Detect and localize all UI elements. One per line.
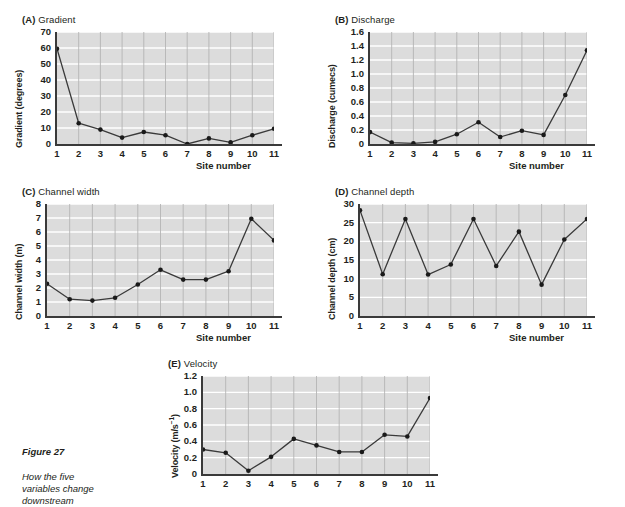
x-tick-label: 5 (134, 149, 154, 159)
x-tick-label: 8 (509, 321, 529, 331)
x-tick-label: 9 (532, 321, 552, 331)
x-tick-label: 6 (469, 149, 489, 159)
data-point (67, 297, 72, 302)
x-axis-line (45, 316, 282, 318)
y-axis-line (358, 204, 360, 317)
y-tick-label: 6 (36, 227, 41, 237)
y-tick-label: 0 (359, 139, 364, 149)
panel-title-velocity: (E) Velocity (168, 358, 217, 369)
x-axis-line (358, 316, 595, 318)
y-axis-ticks: 010203040506070 (21, 32, 51, 144)
x-axis-line (201, 474, 438, 476)
y-tick-label: 10 (40, 123, 51, 133)
x-tick-label: 4 (418, 321, 438, 331)
data-point (292, 437, 297, 442)
y-tick-label: 0 (192, 469, 197, 479)
x-tick-label: 3 (238, 479, 258, 489)
y-tick-label: 20 (40, 107, 51, 117)
x-tick-label: 4 (112, 149, 132, 159)
y-axis-ticks: 00.20.40.60.81.01.21.41.6 (334, 32, 364, 144)
x-tick-label: 4 (261, 479, 281, 489)
data-point (476, 120, 481, 125)
plot-area-channel-depth (360, 204, 587, 316)
x-tick-label: 1 (37, 321, 57, 331)
y-tick-label: 0.2 (184, 453, 197, 463)
y-tick-label: 0.4 (351, 111, 364, 121)
figure-caption: Figure 27 How the five variables change … (22, 434, 147, 507)
plot-svg (47, 204, 274, 316)
data-point (449, 262, 454, 267)
data-point (76, 121, 81, 126)
x-tick-label: 11 (577, 149, 597, 159)
data-point (360, 208, 362, 213)
x-axis-title: Site number (196, 332, 251, 343)
y-tick-label: 7 (36, 213, 41, 223)
x-tick-label: 9 (375, 479, 395, 489)
x-tick-label: 10 (554, 321, 574, 331)
data-point (203, 447, 205, 452)
x-tick-label: 6 (151, 321, 171, 331)
panel-title-discharge: (B) Discharge (335, 14, 395, 25)
data-point (562, 237, 567, 242)
data-point (337, 450, 342, 455)
x-tick-label: 5 (128, 321, 148, 331)
data-point (181, 277, 186, 282)
y-tick-label: 1.0 (184, 387, 197, 397)
data-point (428, 396, 430, 401)
y-tick-label: 0.2 (351, 125, 364, 135)
x-axis-title: Site number (509, 160, 564, 171)
plot-area-gradient (57, 32, 274, 144)
x-tick-label: 10 (241, 321, 261, 331)
data-point (90, 298, 95, 303)
data-point (272, 127, 274, 132)
y-tick-label: 8 (36, 199, 41, 209)
x-tick-label: 8 (352, 479, 372, 489)
y-tick-label: 0 (36, 311, 41, 321)
x-tick-label: 3 (90, 149, 110, 159)
data-point (455, 132, 460, 137)
y-tick-label: 3 (36, 269, 41, 279)
x-tick-label: 1 (350, 321, 370, 331)
data-point (541, 133, 546, 138)
plot-area-channel-width (47, 204, 274, 316)
x-tick-label: 11 (420, 479, 440, 489)
x-tick-label: 5 (284, 479, 304, 489)
data-point (204, 277, 209, 282)
data-point (57, 47, 59, 52)
x-tick-label: 2 (373, 321, 393, 331)
data-point (405, 434, 410, 439)
data-point (426, 272, 431, 277)
x-axis-line (55, 144, 282, 146)
data-point (360, 450, 365, 455)
data-point (142, 130, 147, 135)
x-tick-label: 10 (555, 149, 575, 159)
x-tick-label: 10 (242, 149, 262, 159)
y-tick-label: 0 (349, 311, 354, 321)
plot-svg (370, 32, 587, 144)
y-tick-label: 0.6 (351, 97, 364, 107)
data-point (223, 450, 228, 455)
data-point (269, 455, 274, 460)
x-tick-label: 7 (173, 321, 193, 331)
x-tick-label: 9 (534, 149, 554, 159)
y-tick-label: 4 (36, 255, 41, 265)
y-tick-label: 1.2 (184, 371, 197, 381)
y-tick-label: 1.2 (351, 55, 364, 65)
y-tick-label: 5 (36, 241, 41, 251)
data-point (471, 217, 476, 222)
y-tick-label: 15 (343, 255, 354, 265)
data-point (494, 264, 499, 269)
panel-title-gradient: (A) Gradient (22, 14, 76, 25)
figure-caption-title: Figure 27 (22, 446, 64, 457)
x-tick-label: 4 (105, 321, 125, 331)
x-axis-title: Site number (196, 160, 251, 171)
y-tick-label: 40 (40, 75, 51, 85)
data-point (498, 135, 503, 140)
y-axis-title: Gradient (degrees) (14, 70, 24, 148)
plot-area-velocity (203, 376, 430, 474)
y-axis-line (45, 204, 47, 317)
y-axis-line (55, 32, 57, 145)
data-point (517, 229, 522, 234)
x-tick-label: 10 (397, 479, 417, 489)
data-point (207, 136, 212, 141)
